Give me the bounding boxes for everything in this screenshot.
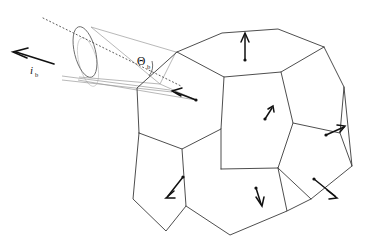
polyhedron-group xyxy=(133,29,352,235)
cone-ray-flat-2 xyxy=(62,80,172,92)
normal-lr-head xyxy=(327,190,337,199)
poly-edge-center-right xyxy=(221,72,293,169)
normal-lr-tail-dot xyxy=(312,177,315,180)
normal-ll-shaft xyxy=(168,177,183,196)
crystal-beam-diagram: Θ b i b xyxy=(0,0,366,247)
normal-center-front-face xyxy=(263,106,274,121)
poly-edge-lower-center xyxy=(186,168,287,235)
normal-cf-shaft xyxy=(265,108,272,119)
normal-top-tail-dot xyxy=(243,58,246,61)
theta-angle-group: Θ b xyxy=(137,55,153,76)
theta-angle-subscript: b xyxy=(147,63,150,70)
normal-ul-shaft xyxy=(175,92,196,100)
normal-lc-tail-dot xyxy=(254,186,257,189)
normal-ll-tail-dot xyxy=(181,175,184,178)
face-normals-group xyxy=(166,33,345,206)
theta-angle-label: Θ xyxy=(137,55,145,67)
incident-beam-group: i b xyxy=(13,48,54,78)
normal-ul-tail-dot xyxy=(194,98,197,101)
normal-top-face xyxy=(241,33,249,62)
incident-beam-label: i xyxy=(30,64,33,76)
poly-edge-top-front xyxy=(177,47,324,77)
normal-right-upper-face xyxy=(324,125,345,137)
poly-edge-top-back xyxy=(177,29,324,52)
normal-lower-center-face xyxy=(254,186,264,206)
normal-ru-tail-dot xyxy=(324,133,327,136)
incident-beam-subscript: b xyxy=(35,71,38,78)
divergence-cone-group xyxy=(62,24,196,100)
poly-edge-right-upper xyxy=(293,47,344,133)
normal-cf-tail-dot xyxy=(263,117,266,120)
incident-beam-arrow-shaft xyxy=(16,52,54,64)
normal-lower-left-face xyxy=(166,175,185,198)
poly-edge-right-diagonal xyxy=(278,168,311,199)
figure-root: Θ b i b xyxy=(0,0,366,247)
optical-axis-line xyxy=(43,18,181,86)
cone-ray-upper-1 xyxy=(160,52,176,84)
cone-ray-flat-1 xyxy=(62,76,170,90)
poly-edge-lower-right xyxy=(287,133,352,211)
